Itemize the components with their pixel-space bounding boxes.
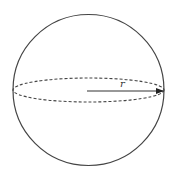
sphere-diagram: r [0,0,175,176]
equator-dashed-ellipse [13,78,164,102]
sphere-outline [13,15,164,166]
